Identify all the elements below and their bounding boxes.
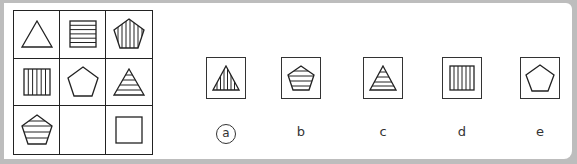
option-a-box[interactable] [206,57,246,99]
selected-answer-circle: a [216,124,236,144]
square-empty-icon [115,116,143,144]
matrix-grid [13,10,153,155]
option-b-box[interactable] [281,57,321,99]
option-e-box[interactable] [520,57,560,99]
grid-cell-2-1 [14,59,60,107]
pentagon-vertical-lines-icon [112,18,146,50]
square-vertical-lines-icon [23,68,51,96]
grid-cell-3-2-missing [60,106,106,154]
pentagon-empty-icon [525,64,555,92]
triangle-vertical-lines-icon [212,65,240,91]
pentagon-horizontal-lines-icon [20,114,54,146]
option-e-label[interactable]: e [520,124,560,139]
option-c-label[interactable]: c [363,124,403,139]
square-horizontal-lines-icon [69,20,97,48]
grid-cell-3-3 [106,106,152,154]
grid-cell-2-3 [106,59,152,107]
grid-cell-1-1 [14,11,60,59]
triangle-horizontal-lines-icon [112,67,146,97]
square-vertical-lines-icon [449,65,475,91]
option-a-label[interactable]: a [206,124,246,144]
triangle-empty-icon [20,19,54,49]
option-d-label[interactable]: d [442,124,482,139]
triangle-horizontal-lines-icon [369,65,397,91]
grid-cell-3-1 [14,106,60,154]
option-d-box[interactable] [442,57,482,99]
grid-cell-1-3 [106,11,152,59]
grid-cell-1-2 [60,11,106,59]
pentagon-horizontal-lines-icon [287,65,315,91]
pentagon-empty-icon [66,66,100,98]
option-c-box[interactable] [363,57,403,99]
option-b-label[interactable]: b [281,124,321,139]
grid-cell-2-2 [60,59,106,107]
